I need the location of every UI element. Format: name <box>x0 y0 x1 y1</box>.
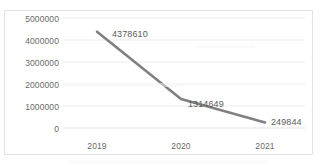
data-label-2019: 4378610 <box>112 29 148 39</box>
data-label-2020: 1314649 <box>188 99 224 109</box>
x-tick-label-2021: 2021 <box>235 141 295 151</box>
y-tick-label-5000000: 5000000 <box>7 14 59 24</box>
y-tick-label-1000000: 1000000 <box>7 102 59 112</box>
x-tick-label-2019: 2019 <box>67 141 127 151</box>
data-label-2021: 249844 <box>271 117 302 127</box>
y-tick-label-0: 0 <box>7 124 59 134</box>
y-tick-label-2000000: 2000000 <box>7 80 59 90</box>
x-tick-label-2020: 2020 <box>151 141 211 151</box>
y-tick-label-3000000: 3000000 <box>7 58 59 68</box>
y-tick-label-4000000: 4000000 <box>7 36 59 46</box>
